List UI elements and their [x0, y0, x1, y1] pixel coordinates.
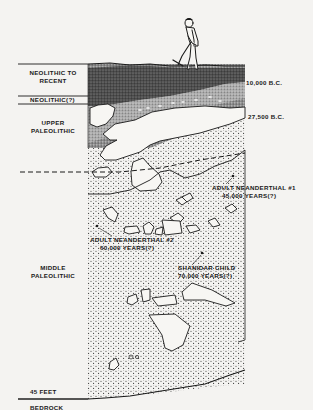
diagram-canvas: NEOLITHIC TO RECENT NEOLITHIC(?) UPPER P… — [0, 0, 313, 410]
date-27500-bc: 27,500 B.C. — [248, 113, 284, 121]
find-adult-neanderthal-2: ADULT NEANDERTHAL #2 60,000 YEARS(?) — [90, 236, 174, 252]
find-age: 60,000 YEARS(?) — [90, 244, 174, 252]
find-name: ADULT NEANDERTHAL #1 — [212, 184, 296, 192]
label-middle-paleolithic: MIDDLE PALEOLITHIC — [20, 264, 86, 280]
label-line: UPPER — [20, 119, 86, 127]
find-name: ADULT NEANDERTHAL #2 — [90, 236, 174, 244]
excavator-icon — [173, 18, 198, 69]
find-age: 70,000 YEARS(?) — [178, 272, 235, 280]
label-neolithic-to-recent: NEOLITHIC TO RECENT — [20, 69, 86, 85]
label-upper-paleolithic: UPPER PALEOLITHIC — [20, 119, 86, 135]
label-depth: 45 FEET — [30, 388, 57, 396]
find-age: 45,000 YEARS(?) — [212, 192, 296, 200]
label-line: PALEOLITHIC — [20, 272, 86, 280]
find-adult-neanderthal-1: ADULT NEANDERTHAL #1 45,000 YEARS(?) — [212, 184, 296, 200]
label-line: MIDDLE — [20, 264, 86, 272]
label-line: PALEOLITHIC — [20, 127, 86, 135]
find-name: SHANIDAR CHILD — [178, 264, 235, 272]
date-10000-bc: 10,000 B.C. — [246, 79, 282, 87]
label-line: NEOLITHIC TO — [20, 69, 86, 77]
stratigraphy-illustration — [0, 0, 313, 410]
label-line: RECENT — [20, 77, 86, 85]
find-shanidar-child: SHANIDAR CHILD 70,000 YEARS(?) — [178, 264, 235, 280]
label-neolithic-uncertain: NEOLITHIC(?) — [30, 96, 75, 104]
period-divider-lines — [18, 64, 88, 399]
label-bedrock: BEDROCK — [30, 404, 63, 410]
